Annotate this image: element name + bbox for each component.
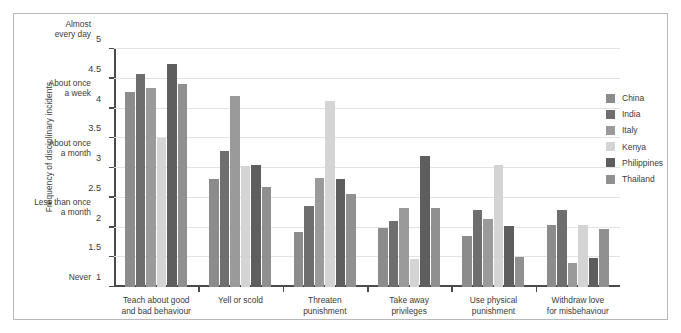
bar: [473, 210, 483, 287]
bar: [209, 179, 219, 287]
y-axis-descriptor-line: About once: [49, 78, 91, 88]
bar: [294, 232, 304, 287]
bar: [578, 225, 588, 287]
bar: [325, 101, 335, 287]
x-axis-category-label-line: Withdraw love: [516, 295, 640, 306]
bar: [515, 257, 525, 287]
bar: [241, 166, 251, 287]
bar-group: [451, 49, 535, 287]
y-axis-descriptor: Almostevery day: [55, 18, 91, 39]
bar: [146, 88, 156, 287]
legend-label: Thailand: [622, 174, 655, 184]
bar: [410, 259, 420, 287]
x-axis-group-separator: [367, 287, 369, 292]
bar: [315, 178, 325, 287]
legend-swatch-icon: [606, 126, 615, 135]
y-axis-tick-label: 5: [96, 34, 101, 44]
legend-item[interactable]: Thailand: [606, 171, 663, 187]
y-axis-tick-label: 3: [96, 153, 101, 163]
y-axis-descriptor-line: Less than once: [34, 197, 91, 207]
chart-frame: Frequency of disciplinary incidents 11.5…: [13, 13, 668, 320]
bar: [420, 156, 430, 287]
bar: [378, 228, 388, 288]
y-axis-tick-label: 4.5: [88, 64, 101, 74]
bar: [399, 208, 409, 287]
bar: [389, 221, 399, 287]
bar: [136, 74, 146, 287]
legend-label: China: [622, 93, 644, 103]
bar-group: [367, 49, 451, 287]
x-axis-category-label-line: and bad behaviour: [94, 306, 218, 317]
y-axis-descriptor-line: Never: [69, 272, 91, 282]
legend-swatch-icon: [606, 110, 615, 119]
legend-label: Kenya: [622, 142, 646, 152]
legend: ChinaIndiaItalyKenyaPhilippinesThailand: [606, 90, 663, 187]
bar: [431, 208, 441, 287]
plot-area: 11.522.533.544.55 NeverLess than oncea m…: [114, 49, 620, 287]
legend-swatch-icon: [606, 175, 615, 184]
y-axis-tick-label: 4: [96, 94, 101, 104]
y-axis-descriptor: About oncea month: [49, 137, 91, 158]
x-axis-category-label: Withdraw lovefor misbehaviour: [516, 295, 640, 316]
bar: [220, 151, 230, 287]
bar-group: [114, 49, 198, 287]
bar: [557, 210, 567, 287]
bar: [230, 96, 240, 287]
x-axis-category-label-line: for misbehaviour: [516, 306, 640, 317]
bar: [125, 92, 135, 287]
y-axis-descriptor-line: every day: [55, 29, 91, 39]
x-axis-group-separator: [198, 287, 200, 292]
y-axis-descriptor: Less than oncea month: [34, 197, 91, 218]
bar: [504, 226, 514, 287]
bar: [547, 225, 557, 287]
y-axis-tick-label: 1.5: [88, 242, 101, 252]
legend-item[interactable]: China: [606, 90, 663, 106]
bar-group: [283, 49, 367, 287]
legend-item[interactable]: Philippines: [606, 155, 663, 171]
bar: [483, 219, 493, 287]
bar-group: [198, 49, 282, 287]
legend-swatch-icon: [606, 158, 615, 167]
legend-label: India: [622, 109, 640, 119]
bar: [494, 165, 504, 287]
y-axis-descriptor-line: Almost: [55, 18, 91, 28]
legend-label: Philippines: [622, 158, 663, 168]
x-axis-group-separator: [283, 287, 285, 292]
legend-item[interactable]: Kenya: [606, 139, 663, 155]
y-axis-descriptor-line: About once: [49, 137, 91, 147]
y-axis-tick-label: 3.5: [88, 123, 101, 133]
x-axis-group-separator: [536, 287, 538, 292]
y-axis-descriptor: Never: [69, 272, 91, 282]
bar: [304, 206, 314, 288]
x-axis-group-separator: [451, 287, 453, 292]
legend-swatch-icon: [606, 94, 615, 103]
y-axis-descriptor-line: a month: [34, 207, 91, 217]
bar: [599, 229, 609, 287]
y-axis-descriptor: About oncea week: [49, 78, 91, 99]
legend-item[interactable]: Italy: [606, 122, 663, 138]
chart-figure: Frequency of disciplinary incidents 11.5…: [0, 0, 681, 333]
y-axis-tick-label: 2: [96, 213, 101, 223]
legend-label: Italy: [622, 125, 638, 135]
bar: [346, 194, 356, 287]
bar: [178, 84, 188, 287]
y-axis-descriptor-line: a month: [49, 148, 91, 158]
y-axis-tick-label: 1: [96, 272, 101, 282]
bar: [251, 165, 261, 287]
y-axis-descriptor-line: a week: [49, 88, 91, 98]
legend-swatch-icon: [606, 142, 615, 151]
bar: [167, 64, 177, 287]
bar: [336, 179, 346, 287]
y-axis-tick-label: 2.5: [88, 183, 101, 193]
bar: [157, 138, 167, 287]
bar: [568, 263, 578, 287]
legend-item[interactable]: India: [606, 106, 663, 122]
bar: [462, 236, 472, 287]
bar: [589, 258, 599, 287]
bar: [262, 187, 272, 287]
